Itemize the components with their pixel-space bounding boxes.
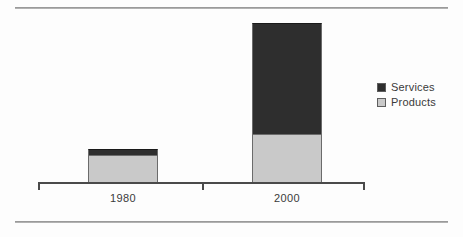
legend-item-products[interactable]: Products — [377, 95, 461, 109]
x-axis-tick-end — [363, 183, 365, 190]
bar-segment-products-2000[interactable] — [252, 134, 322, 183]
bar-segment-products-1980[interactable] — [88, 155, 158, 183]
bar-segment-services-2000[interactable] — [252, 23, 322, 134]
x-axis-label-2000: 2000 — [227, 192, 347, 204]
legend-label-services: Services — [391, 81, 435, 93]
legend-swatch-products-icon — [377, 98, 386, 107]
x-axis-label-1980: 1980 — [63, 192, 183, 204]
x-axis-tick-start — [38, 183, 40, 190]
legend-item-services[interactable]: Services — [377, 80, 461, 94]
stacked-bar-2000[interactable] — [252, 23, 322, 183]
legend-swatch-services-icon — [377, 83, 386, 92]
chart-legend: Services Products — [377, 80, 461, 110]
plot-area: 1980 2000 Services Products — [0, 0, 463, 237]
legend-label-products: Products — [391, 96, 436, 108]
bottom-divider-rule — [15, 221, 448, 223]
chart-figure: 1980 2000 Services Products — [0, 0, 463, 237]
stacked-bar-1980[interactable] — [88, 149, 158, 183]
x-axis-tick-middle — [202, 183, 204, 190]
